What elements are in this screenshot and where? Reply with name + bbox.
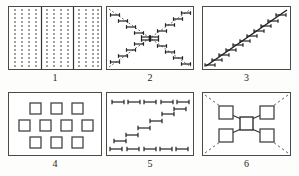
panel-4-offset-square-grid-graphic [8,92,102,156]
panel-5-barbell-rows-staircase-graphic [106,92,194,156]
panel-2-barbell-group-upper-right [150,11,191,39]
panel-5-label: 5 [106,158,194,169]
panel-5-barbell-staircase [114,107,186,143]
figure-container: 1 [0,0,299,176]
panel-2-barbell-group-lower-left [111,38,151,64]
panel-1 [8,6,102,70]
panel-6 [202,92,291,156]
panel-4-square-row-top [30,103,83,114]
panel-5-barbell-row-bottom [110,147,188,151]
panel-1-vertical-dashed-lines-graphic [8,6,102,70]
panel-6-center-square [240,117,253,130]
panel-2-label: 2 [106,72,194,83]
panel-1-label: 1 [8,72,102,83]
panel-3 [202,6,291,70]
panel-5 [106,92,194,156]
panel-4-label: 4 [8,158,102,169]
panel-4 [8,92,102,156]
panel-3-solid-diagonal-barbells-graphic [202,6,291,70]
panel-2-barbell-group-upper-left [111,13,151,39]
panel-4-square-row-bottom [30,137,83,148]
panel-2-x-diagonal-barbells-graphic [106,6,194,70]
panel-3-diagonal-line [206,10,287,66]
panel-4-square-row-middle [19,120,93,131]
panel-6-central-square-diagonals-graphic [202,92,291,156]
panel-5-barbell-row-top [112,100,189,104]
panel-6-label: 6 [202,158,291,169]
panel-2 [106,6,194,70]
panel-3-label: 3 [202,72,291,83]
